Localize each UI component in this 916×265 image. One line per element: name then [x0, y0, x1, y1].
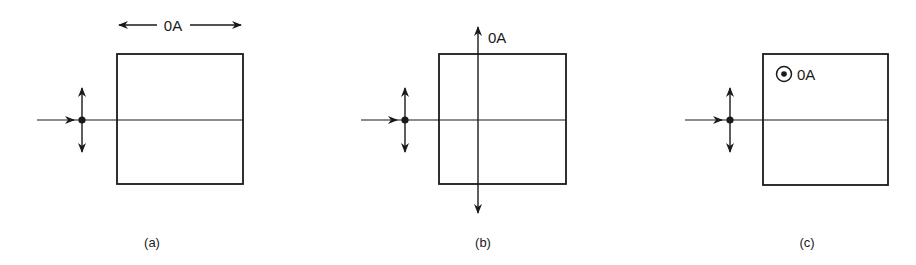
panel-c: 0A (c)	[685, 54, 888, 250]
panel-a: 0A (a)	[37, 17, 243, 250]
panel-caption: (b)	[475, 235, 491, 250]
polarization-arrow-icon	[401, 88, 408, 152]
polarization-arrow-icon	[78, 88, 85, 152]
out-of-page-dot-circle-icon	[777, 67, 792, 82]
panel-caption: (a)	[144, 235, 160, 250]
birefringence-diagram: 0A (a) 0A (b)	[0, 0, 916, 265]
panel-b: 0A (b)	[361, 27, 566, 250]
optic-axis-label: 0A	[164, 17, 182, 34]
crystal-box	[439, 54, 566, 184]
optic-axis-label: 0A	[797, 66, 815, 83]
crystal-box	[117, 54, 243, 184]
panel-caption: (c)	[799, 235, 814, 250]
optic-axis-label: 0A	[488, 29, 506, 46]
polarization-arrow-icon	[726, 88, 733, 152]
